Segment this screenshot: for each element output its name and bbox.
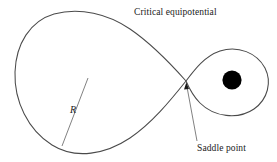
critical-equipotential-label: Critical equipotential — [134, 8, 217, 18]
saddle-leader-line — [187, 88, 197, 141]
saddle-point-label: Saddle point — [197, 144, 246, 154]
roche-lobe-figure: Critical equipotential Saddle point R — [0, 0, 277, 162]
critical-equipotential-svg — [0, 0, 277, 162]
radius-label: R — [70, 105, 76, 115]
primary-lobe-path — [15, 11, 186, 153]
compact-object-dot — [222, 70, 241, 89]
